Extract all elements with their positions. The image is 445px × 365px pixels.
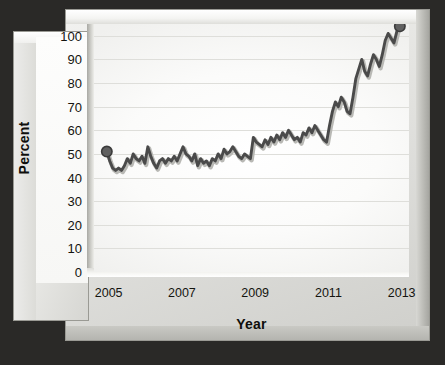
y-axis-tick-label: 50: [36, 148, 82, 161]
y-axis-tick-label: 40: [36, 172, 82, 185]
y-axis-title: Percent: [16, 106, 32, 190]
y-axis-tick-label: 100: [36, 30, 82, 43]
x-axis-title: Year: [94, 316, 409, 332]
y-axis-tick-label: 90: [36, 53, 82, 66]
data-point-marker: [395, 24, 405, 32]
data-series-line: [94, 24, 409, 272]
y-axis-tick-label: 0: [36, 266, 82, 279]
x-axis-tick-label: 2005: [81, 286, 137, 300]
chart-3d-top-bevel: [66, 10, 429, 24]
data-point-marker: [102, 146, 112, 156]
y-axis-tick-label: 70: [36, 101, 82, 114]
plot-area: [94, 24, 409, 272]
x-axis-tick-label: 2013: [374, 286, 430, 300]
chart-figure: Percent 1009080706050403020100 200520072…: [0, 0, 445, 365]
x-axis-tick-label: 2011: [300, 286, 356, 300]
y-axis-tick-label: 20: [36, 219, 82, 232]
y-axis-tick-label: 80: [36, 77, 82, 90]
y-axis-tick-label: 30: [36, 195, 82, 208]
x-axis-tick-label: 2007: [154, 286, 210, 300]
y-axis-tick-label: 60: [36, 124, 82, 137]
y-axis-tick-label: 10: [36, 242, 82, 255]
x-axis-tick-label: 2009: [227, 286, 283, 300]
plot-left-wall: [87, 24, 94, 276]
